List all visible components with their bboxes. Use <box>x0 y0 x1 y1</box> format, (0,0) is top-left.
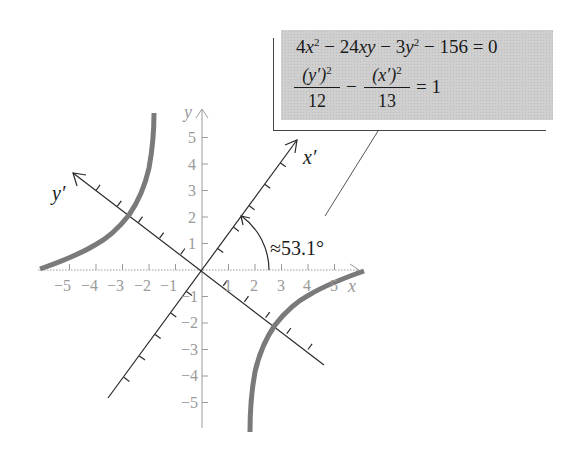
y-tick-label: 4 <box>188 156 196 173</box>
y-tick-label: −2 <box>181 314 198 331</box>
y-tick-label: 1 <box>188 235 196 252</box>
y-tick-label: −1 <box>181 288 198 305</box>
x-tick-label: 4 <box>303 277 311 294</box>
x-tick-label: −2 <box>134 277 151 294</box>
equals-one: = 1 <box>416 76 441 98</box>
x-prime-axis-label: x′ <box>302 146 317 168</box>
y-prime-axis <box>73 173 324 365</box>
angle-arc <box>241 216 269 270</box>
fraction-y-prime: (y′)2 12 <box>294 64 340 112</box>
callout-pointer <box>325 131 378 216</box>
y-tick-label: 3 <box>188 182 196 199</box>
callout-frame-left <box>273 38 274 130</box>
callout-frame-bottom <box>273 130 546 131</box>
fraction-x-prime: (x′)2 13 <box>364 64 410 112</box>
y-axis-label: y <box>182 102 192 122</box>
y-tick-label: −3 <box>181 341 198 358</box>
x-tick-label: −3 <box>107 277 124 294</box>
angle-label: ≈53.1° <box>270 237 324 259</box>
y-tick-label: −4 <box>181 367 198 384</box>
x-tick-label: 2 <box>250 277 258 294</box>
x-tick-label: −1 <box>160 277 177 294</box>
y-tick-label: 2 <box>188 209 196 226</box>
y-tick-label: 5 <box>188 129 196 146</box>
x-tick-label: −4 <box>81 277 98 294</box>
general-equation: 4x2 − 24xy − 3y2 − 156 = 0 <box>296 36 498 58</box>
x-tick-label: −5 <box>54 277 71 294</box>
y-prime-axis-label: y′ <box>50 182 66 205</box>
diagram-canvas: −5 −4 −3 −2 −1 1 2 3 4 5 5 4 3 2 1 −1 −2… <box>0 0 582 460</box>
x-tick-label: 1 <box>224 277 232 294</box>
x-axis-label: x <box>347 276 356 296</box>
x-tick-label: 5 <box>330 277 338 294</box>
y-tick-label: −5 <box>181 394 198 411</box>
x-tick-label: 3 <box>277 277 285 294</box>
minus-sign: − <box>346 76 357 98</box>
